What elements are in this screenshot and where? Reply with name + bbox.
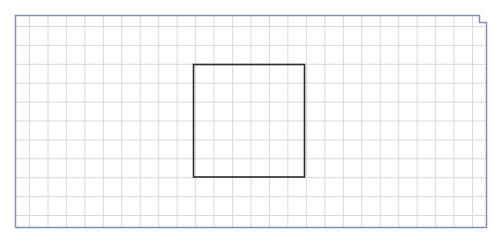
graph-paper-canvas xyxy=(0,0,502,241)
